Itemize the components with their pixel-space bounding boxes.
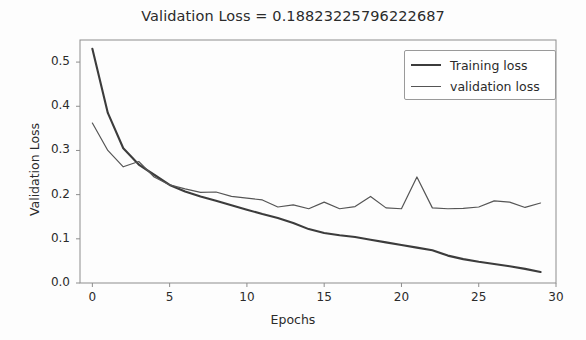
legend-swatch-validation-loss	[411, 86, 441, 87]
y-tick-label: 0.5	[34, 54, 70, 68]
y-tick-label: 0.3	[34, 142, 70, 156]
x-tick-label: 30	[538, 290, 574, 304]
x-tick-label: 10	[229, 290, 265, 304]
y-axis-label: Validation Loss	[27, 90, 42, 250]
legend-entry-validation-loss: validation loss	[411, 76, 540, 96]
y-tick-label: 0.4	[34, 98, 70, 112]
chart-legend: Training loss validation loss	[404, 50, 556, 100]
legend-label-training-loss: Training loss	[450, 58, 527, 73]
y-tick-label: 0.0	[34, 275, 70, 289]
y-tick-label: 0.1	[34, 231, 70, 245]
legend-entry-training-loss: Training loss	[411, 55, 527, 75]
series-line-validation-loss	[92, 123, 540, 209]
x-axis-label: Epochs	[0, 312, 586, 327]
x-tick-label: 25	[461, 290, 497, 304]
legend-swatch-training-loss	[411, 64, 441, 66]
y-tick-label: 0.2	[34, 187, 70, 201]
x-tick-label: 15	[306, 290, 342, 304]
x-tick-label: 0	[74, 290, 110, 304]
legend-label-validation-loss: validation loss	[450, 79, 540, 94]
x-tick-label: 20	[383, 290, 419, 304]
chart-figure: Validation Loss = 0.18823225796222687 Va…	[0, 0, 586, 340]
x-tick-label: 5	[152, 290, 188, 304]
